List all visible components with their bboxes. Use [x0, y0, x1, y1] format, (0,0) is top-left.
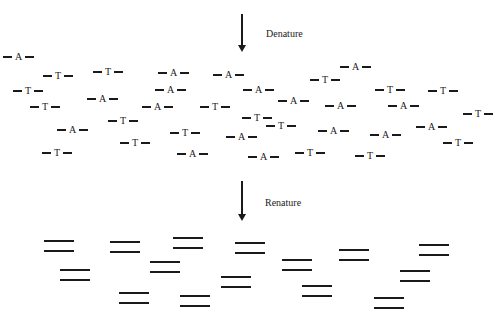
strand-base-label: T [22, 86, 34, 96]
strand-dash-left [325, 105, 334, 107]
strand-base-label: A [12, 52, 25, 62]
strand-dash-right [199, 153, 208, 155]
strand-base-label: A [96, 94, 109, 104]
dna-denature-renature-diagram: Denature ATTAAATTAATTAAAATATTTTTAATAAATT… [0, 0, 500, 309]
double-strand-duplex [60, 269, 90, 281]
strand-base-label: A [287, 96, 300, 106]
strand-base-label: T [364, 151, 376, 161]
double-strand-duplex [419, 244, 449, 256]
strand-dash-right [248, 136, 257, 138]
strand-base-label: T [129, 138, 141, 148]
duplex-strand-bottom [235, 252, 265, 254]
single-strand: A [248, 152, 279, 162]
strand-dash-right [316, 152, 325, 154]
single-strand: T [42, 148, 72, 158]
strand-base-label: T [251, 113, 263, 123]
strand-dash-right [396, 89, 405, 91]
double-strand-duplex [110, 241, 140, 253]
strand-dash-left [42, 152, 51, 154]
single-strand: T [443, 138, 473, 148]
double-strand-duplex [235, 242, 265, 254]
single-strand: T [295, 148, 325, 158]
duplex-strand-top [235, 242, 265, 244]
duplex-strand-top [302, 285, 332, 287]
duplex-strand-bottom [419, 254, 449, 256]
single-strand: A [3, 52, 34, 62]
duplex-strand-top [374, 297, 404, 299]
strand-base-label: A [252, 85, 265, 95]
strand-dash-right [79, 129, 88, 131]
strand-dash-left [120, 142, 129, 144]
strand-dash-left [13, 90, 22, 92]
strand-base-label: T [472, 109, 484, 119]
strand-base-label: T [275, 121, 287, 131]
strand-base-label: A [186, 149, 199, 159]
strand-dash-left [443, 142, 452, 144]
strand-dash-right [235, 74, 244, 76]
strand-dash-right [180, 72, 189, 74]
strand-dash-right [347, 105, 356, 107]
strand-base-label: T [51, 148, 63, 158]
duplex-strand-bottom [44, 250, 74, 252]
strand-dash-right [25, 56, 34, 58]
strand-dash-left [158, 72, 167, 74]
double-strand-duplex [339, 249, 369, 261]
strand-dash-left [93, 71, 102, 73]
strand-base-label: A [334, 101, 347, 111]
single-strand: A [278, 96, 309, 106]
strand-dash-right [300, 100, 309, 102]
strand-dash-right [270, 156, 279, 158]
strand-dash-right [164, 106, 173, 108]
strand-dash-left [177, 153, 186, 155]
duplex-strand-bottom [173, 247, 203, 249]
single-strand: T [108, 116, 138, 126]
duplex-strand-top [119, 292, 149, 294]
strand-dash-right [191, 132, 200, 134]
duplex-strand-top [60, 269, 90, 271]
single-strand: T [200, 102, 230, 112]
duplex-strand-top [180, 295, 210, 297]
renature-arrow-icon [241, 181, 243, 215]
strand-base-label: A [349, 62, 362, 72]
double-strand-duplex [400, 270, 430, 282]
strand-dash-left [278, 100, 287, 102]
strand-dash-right [438, 126, 447, 128]
single-strand: A [388, 101, 419, 111]
single-strand: A [158, 68, 189, 78]
duplex-strand-bottom [339, 259, 369, 261]
single-strand: A [87, 94, 118, 104]
strand-dash-right [287, 125, 296, 127]
duplex-strand-bottom [150, 271, 180, 273]
single-strand: T [266, 121, 296, 131]
strand-base-label: A [425, 122, 438, 132]
single-strand: A [325, 101, 356, 111]
strand-dash-left [170, 132, 179, 134]
duplex-strand-top [282, 259, 312, 261]
single-strand: T [30, 102, 60, 112]
duplex-strand-bottom [119, 302, 149, 304]
double-strand-duplex [221, 276, 251, 288]
duplex-strand-bottom [60, 279, 90, 281]
duplex-strand-bottom [282, 269, 312, 271]
strand-dash-right [51, 106, 60, 108]
strand-base-label: A [257, 152, 270, 162]
strand-dash-left [108, 120, 117, 122]
strand-dash-right [177, 89, 186, 91]
strand-dash-right [392, 134, 401, 136]
strand-dash-right [362, 66, 371, 68]
strand-base-label: T [209, 102, 221, 112]
strand-dash-right [331, 79, 340, 81]
single-strand: T [93, 67, 123, 77]
strand-dash-right [449, 90, 458, 92]
strand-base-label: A [397, 101, 410, 111]
strand-base-label: T [179, 128, 191, 138]
strand-dash-right [464, 142, 473, 144]
strand-base-label: A [66, 125, 79, 135]
strand-base-label: T [39, 102, 51, 112]
strand-dash-right [63, 152, 72, 154]
strand-dash-left [226, 136, 235, 138]
strand-dash-right [64, 75, 73, 77]
strand-base-label: A [222, 70, 235, 80]
denature-label: Denature [266, 28, 303, 39]
duplex-strand-bottom [180, 305, 210, 307]
